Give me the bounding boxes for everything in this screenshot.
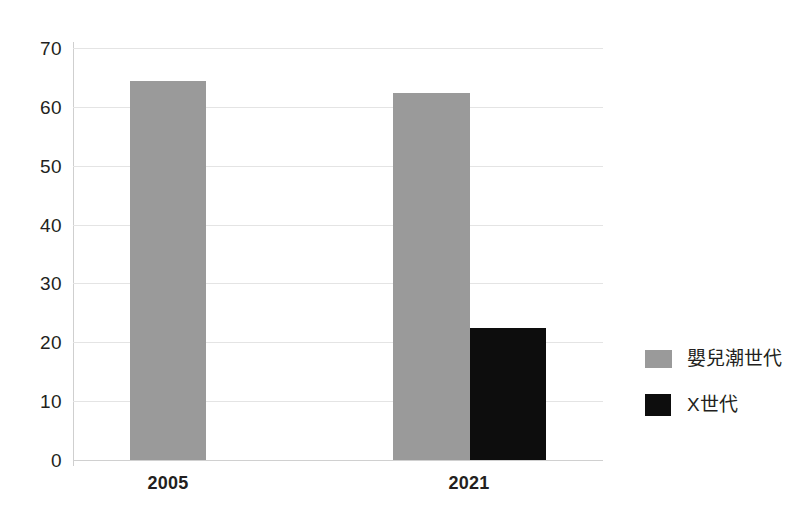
bar-2005-boomer <box>130 81 206 460</box>
y-axis-tick-label: 70 <box>20 39 62 58</box>
y-axis-tick-labels: 70 60 50 40 30 20 10 0 <box>0 0 62 516</box>
y-axis-tick-label: 50 <box>20 157 62 176</box>
y-axis-tick-label: 60 <box>20 98 62 117</box>
x-axis-tick-label-2005: 2005 <box>128 474 208 492</box>
legend-swatch-icon-boomer <box>645 350 672 368</box>
legend: 嬰兒潮世代 X世代 <box>645 344 805 436</box>
y-axis-tick-label: 0 <box>20 451 62 470</box>
y-axis-tick-label: 30 <box>20 274 62 293</box>
y-axis-tick-label: 20 <box>20 333 62 352</box>
bar-chart: 70 60 50 40 30 20 10 0 2005 2021 嬰兒潮世代 <box>0 0 811 516</box>
y-axis-tick-label: 10 <box>20 392 62 411</box>
x-axis-tick-label-2021: 2021 <box>429 474 509 492</box>
legend-label-genx: X世代 <box>687 392 738 418</box>
legend-swatch-icon-genx <box>645 394 671 416</box>
legend-item-genx: X世代 <box>645 390 805 436</box>
bar-2021-boomer <box>393 93 470 460</box>
gridline-70 <box>73 48 603 49</box>
bar-2021-genx <box>470 328 546 460</box>
legend-item-boomer: 嬰兒潮世代 <box>645 344 805 390</box>
x-axis-line <box>73 460 603 461</box>
legend-label-boomer: 嬰兒潮世代 <box>687 346 782 372</box>
plot-area <box>73 48 603 460</box>
y-axis-tick-label: 40 <box>20 216 62 235</box>
